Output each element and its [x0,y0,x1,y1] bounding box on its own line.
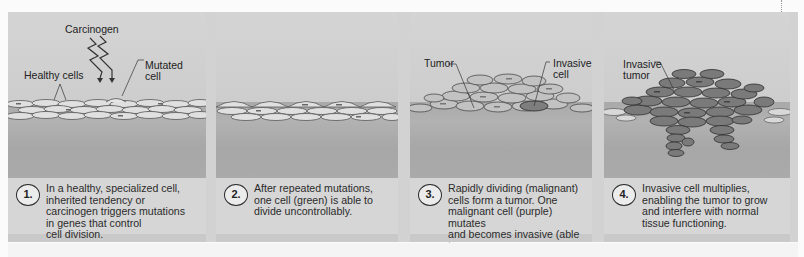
panel-step-4: Invasive tumor 4. Invasive cell multipli… [604,12,790,242]
label-mutated-cell: Mutated cell [145,60,183,82]
invasive-tumor-mass [604,12,790,178]
caption-box: 4. Invasive cell multiplies, enabling th… [604,178,790,234]
panel-step-1: Carcinogen Healthy cells Mutated cell 1.… [8,12,206,242]
panel-step-2: 2. After repeated mutations, one cell (g… [216,12,398,242]
caption-text: In a healthy, specialized cell, inherite… [46,183,202,241]
step-number-badge: 3. [418,184,442,206]
caption-box: 1. In a healthy, specialized cell, inher… [8,178,206,234]
cancer-development-figure: Carcinogen Healthy cells Mutated cell 1.… [8,12,798,242]
tumor-cell-mass [410,12,592,178]
carcinogen-lightning-icon [88,36,112,78]
mutated-cell [106,99,126,103]
label-tumor: Tumor [424,58,454,69]
label-invasive-tumor: Invasive tumor [623,59,662,81]
caption-box: 3. Rapidly dividing (malignant) cells fo… [410,178,592,234]
label-healthy-cells: Healthy cells [24,70,84,81]
step-number-badge: 2. [224,184,248,206]
step-number-badge: 1. [16,184,40,206]
label-invasive-cell: Invasive cell [553,58,592,80]
step-number-badge: 4. [612,184,636,206]
healthy-cell-layer [8,12,206,178]
panel-step-3: Tumor Invasive cell 3. Rapidly dividing … [410,12,592,242]
caption-box: 2. After repeated mutations, one cell (g… [216,178,398,234]
caption-text: Invasive cell multiplies, enabling the t… [642,183,786,229]
caption-text: After repeated mutations, one cell (gree… [254,183,394,218]
mutated-cell-layer [216,12,398,178]
label-carcinogen: Carcinogen [65,24,119,35]
bottom-margin [8,243,798,257]
